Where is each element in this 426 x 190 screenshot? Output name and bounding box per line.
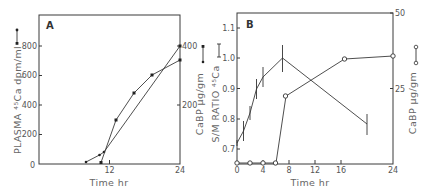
svg-text:50: 50 [395, 9, 405, 18]
panel-b-right-legend-key [414, 45, 418, 65]
series-cabp-a-markers [100, 59, 182, 165]
svg-text:0.9: 0.9 [222, 85, 235, 94]
svg-text:4: 4 [260, 166, 265, 175]
series-sm-ratio-error-bars [237, 45, 367, 146]
svg-text:24: 24 [388, 166, 398, 175]
panel-b-label: B [246, 19, 254, 30]
panel-b-xlabel: Time hr [290, 177, 330, 188]
svg-text:0.7: 0.7 [222, 145, 235, 154]
svg-text:12: 12 [104, 166, 114, 175]
svg-text:800: 800 [22, 42, 37, 51]
series-cabp-b-markers [235, 54, 395, 165]
svg-text:400: 400 [22, 101, 37, 110]
series-sm-ratio [237, 58, 367, 143]
panel-a-x-axis: 12 24 [104, 160, 185, 175]
panel-a-xlabel: Time hr [89, 177, 129, 188]
panel-a-y2label: CaBP µg/gm [194, 73, 205, 135]
series-cabp-a [101, 60, 180, 163]
panel-a-ylabel: PLASMA ⁴⁵Ca dpm/ml [12, 46, 23, 154]
panel-a-frame [39, 15, 180, 164]
panel-a-label: A [46, 20, 54, 31]
series-cabp-b [237, 56, 393, 163]
svg-text:1.0: 1.0 [222, 54, 235, 63]
svg-text:1.1: 1.1 [222, 24, 235, 33]
series-plasma-45ca [86, 46, 180, 162]
panel-a: A 800 600 400 200 0 400 200 12 24 Time h… [12, 15, 205, 188]
svg-text:200: 200 [22, 130, 37, 139]
panel-b-frame [237, 13, 393, 164]
svg-text:16: 16 [336, 166, 346, 175]
panel-b-left-legend-key [217, 44, 221, 57]
svg-text:24: 24 [175, 166, 185, 175]
series-plasma-45ca-markers [85, 45, 182, 164]
svg-text:8: 8 [286, 166, 291, 175]
panel-a-left-legend-key [16, 29, 19, 45]
panel-b-x-axis: 0 4 8 12 16 24 [234, 160, 398, 175]
panel-b-right-axis: 50 25 [390, 9, 405, 94]
panel-b-ylabel: S/M RATIO ⁴⁵Ca [210, 65, 221, 142]
svg-text:400: 400 [182, 42, 197, 51]
panel-b-y2label: CaBP µg/gm [407, 72, 418, 134]
svg-text:0.8: 0.8 [222, 115, 235, 124]
figure: A 800 600 400 200 0 400 200 12 24 Time h… [0, 0, 426, 190]
svg-text:0: 0 [234, 166, 239, 175]
svg-text:600: 600 [22, 71, 37, 80]
svg-text:25: 25 [395, 85, 405, 94]
panel-a-right-legend-key [202, 45, 205, 63]
panel-b: B 1.1 1.0 0.9 0.8 0.7 50 25 0 [210, 9, 418, 188]
svg-text:12: 12 [310, 166, 320, 175]
svg-text:0: 0 [30, 161, 35, 170]
